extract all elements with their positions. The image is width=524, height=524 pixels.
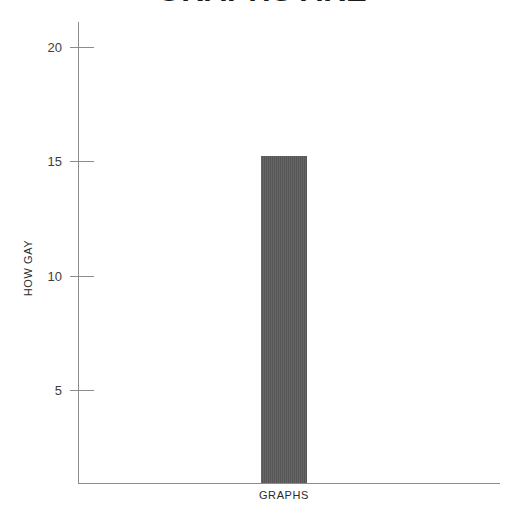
y-axis-line [78, 22, 79, 483]
x-tick-label-graphs: GRAPHS [204, 489, 364, 501]
y-tick-label-15: 15 [20, 154, 62, 169]
bar-graphs [261, 156, 307, 483]
y-tick-label-5: 5 [20, 383, 62, 398]
y-tick-mark-10 [70, 276, 94, 277]
x-axis-line [78, 483, 500, 484]
bar-chart-figure: GRAPHS ARE 20 15 10 5 HOW GAY GRAPHS [0, 0, 524, 524]
y-tick-mark-5 [70, 390, 94, 391]
y-tick-mark-20 [70, 47, 94, 48]
y-tick-label-20: 20 [20, 40, 62, 55]
y-tick-mark-15 [70, 161, 94, 162]
chart-title: GRAPHS ARE [0, 0, 524, 9]
y-axis-title: HOW GAY [22, 240, 34, 297]
